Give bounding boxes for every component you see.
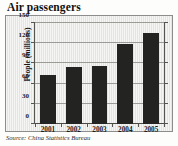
x-tick-mark [87,124,88,127]
bar-2001 [40,75,56,124]
x-tick-label-2001: 2001 [41,126,55,134]
y-tick-label: 90 [22,51,29,59]
y-tick-mark-right [164,103,168,104]
x-tick-label-2003: 2003 [92,126,106,134]
y-tick-mark [31,42,35,43]
y-tick-mark-right [164,42,168,43]
y-tick-label: 30 [22,92,29,100]
y-tick-mark-right [164,83,168,84]
bar-2003 [92,66,108,124]
x-tick-label-2002: 2002 [67,126,81,134]
y-tick-mark [31,83,35,84]
y-tick-mark [31,62,35,63]
y-tick-label: 150 [19,11,30,19]
bar-2002 [66,67,82,124]
x-tick-mark [61,124,62,127]
chart-figure: Air passengers People (millions) 0306090… [0,0,178,146]
y-tick-mark-right [164,22,168,23]
bar-2004 [117,44,133,124]
y-tick-mark [31,22,35,23]
x-tick-mark [138,124,139,127]
x-tick-mark [112,124,113,127]
x-tick-label-2004: 2004 [118,126,132,134]
y-tick-label: 60 [22,72,29,80]
x-tick-label-2005: 2005 [144,126,158,134]
y-tick-mark-right [164,62,168,63]
y-axis-line-left [34,23,35,124]
plot-area: 0306090120150 20012002200320042005 [35,23,164,124]
gridline [35,22,164,23]
y-tick-label: 0 [26,112,30,120]
x-tick-mark [164,124,165,127]
bar-2005 [143,33,159,124]
plot-frame: People (millions) 0306090120150 20012002… [5,15,173,132]
source-note: Source: China Statistics Bureau [6,134,90,141]
y-axis-line-right [164,23,165,124]
y-tick-mark [31,103,35,104]
x-tick-mark [35,124,36,127]
y-tick-label: 120 [19,31,30,39]
